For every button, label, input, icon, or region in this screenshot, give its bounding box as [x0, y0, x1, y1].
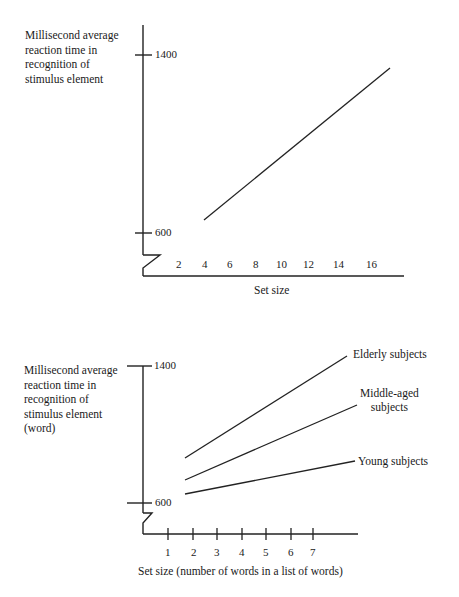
legend-middle-line1: Middle-aged: [360, 386, 419, 400]
bottom-ytick-label-1400: 1400: [154, 359, 176, 371]
top-xtick-label: 10: [276, 258, 287, 270]
top-xtick-label: 4: [202, 258, 208, 270]
top-xtick-label: 6: [227, 258, 233, 270]
bottom-ytick-label-600: 600: [155, 496, 172, 508]
charts-svg: [0, 0, 459, 597]
bottom-axis-break: [143, 513, 152, 534]
bottom-xtick-label: 6: [288, 546, 294, 558]
bottom-xtick-label: 1: [165, 546, 171, 558]
legend-young: Young subjects: [358, 454, 428, 468]
bottom-xtick-label: 3: [214, 546, 220, 558]
bottom-ylabel-line: recognition of: [24, 392, 118, 407]
bottom-y-axis-label: Millisecond average reaction time in rec…: [24, 363, 118, 436]
bottom-x-axis-label: Set size (number of words in a list of w…: [138, 565, 343, 577]
top-xtick-label: 14: [333, 258, 344, 270]
series-elderly: [185, 356, 347, 458]
bottom-ylabel-line: reaction time in: [24, 378, 118, 393]
top-series-line: [204, 68, 390, 220]
legend-middle-aged: Middle-aged subjects: [360, 386, 419, 414]
bottom-xtick-label: 7: [310, 546, 316, 558]
bottom-xtick-label: 4: [239, 546, 245, 558]
top-axis-break: [143, 255, 160, 276]
top-x-axis-label: Set size: [254, 284, 289, 296]
legend-elderly: Elderly subjects: [353, 347, 427, 361]
bottom-ylabel-line: stimulus element: [24, 407, 118, 422]
top-xtick-label: 12: [303, 258, 314, 270]
series-young: [185, 461, 355, 494]
top-ytick-label-600: 600: [155, 226, 172, 238]
legend-middle-line2: subjects: [360, 400, 419, 414]
bottom-ylabel-line: (word): [24, 421, 118, 436]
bottom-xtick-label: 5: [263, 546, 269, 558]
top-xtick-label: 8: [253, 258, 259, 270]
top-ytick-label-1400: 1400: [155, 48, 177, 60]
bottom-ylabel-line: Millisecond average: [24, 363, 118, 378]
top-xtick-label: 16: [366, 258, 377, 270]
top-xtick-label: 2: [176, 258, 182, 270]
bottom-xtick-label: 2: [191, 546, 197, 558]
